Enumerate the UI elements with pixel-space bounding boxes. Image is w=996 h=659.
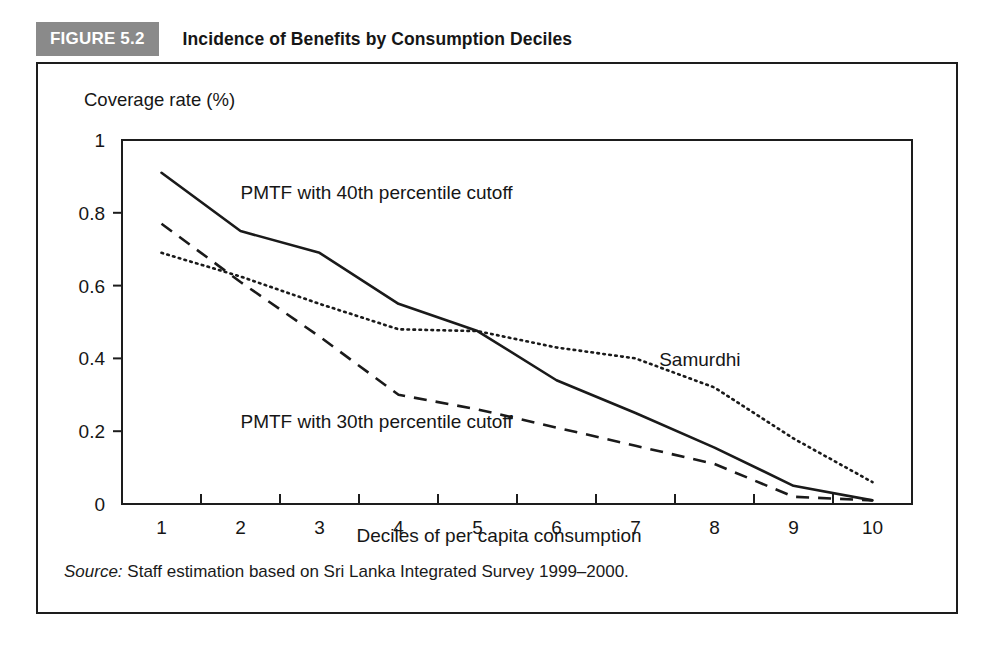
source-label: Source: [64, 562, 123, 581]
source-note: Source: Staff estimation based on Sri La… [64, 562, 629, 582]
x-tick-label: 10 [862, 517, 883, 538]
source-text: Staff estimation based on Sri Lanka Inte… [123, 562, 629, 581]
figure-title: Incidence of Benefits by Consumption Dec… [159, 22, 572, 56]
series-line-solid [162, 173, 873, 501]
figure-root: FIGURE 5.2 Incidence of Benefits by Cons… [0, 0, 996, 659]
x-tick-label: 3 [314, 517, 325, 538]
y-tick-label: 0.8 [79, 203, 105, 224]
line-chart: Coverage rate (%) 00.20.40.60.81 1234567… [38, 64, 960, 616]
series-line-dashed [162, 224, 873, 501]
x-axis-title: Deciles of per capita consumption [356, 525, 641, 546]
y-tick-label: 0 [94, 494, 105, 515]
y-axis-title: Coverage rate (%) [84, 89, 235, 110]
series-annotation: PMTF with 30th percentile cutoff [241, 411, 514, 432]
figure-title-row: FIGURE 5.2 Incidence of Benefits by Cons… [36, 22, 572, 56]
series-annotation: PMTF with 40th percentile cutoff [241, 182, 514, 203]
y-tick-label: 0.6 [79, 276, 105, 297]
y-tick-label: 0.4 [79, 348, 106, 369]
y-tick-label: 1 [94, 130, 105, 151]
y-tick-label: 0.2 [79, 421, 105, 442]
chart-canvas: Coverage rate (%) 00.20.40.60.81 1234567… [38, 64, 960, 616]
x-tick-label: 9 [788, 517, 799, 538]
x-tick-label: 8 [709, 517, 720, 538]
figure-number-badge: FIGURE 5.2 [36, 22, 159, 56]
x-tick-label: 1 [156, 517, 167, 538]
series-line-dotted [162, 253, 873, 482]
figure-frame: Coverage rate (%) 00.20.40.60.81 1234567… [36, 62, 958, 614]
y-axis-ticks: 00.20.40.60.81 [79, 130, 122, 515]
series-annotation: Samurdhi [659, 349, 740, 370]
x-tick-label: 2 [235, 517, 246, 538]
annotation-group: PMTF with 40th percentile cutoffPMTF wit… [241, 182, 741, 432]
series-group [162, 173, 873, 501]
